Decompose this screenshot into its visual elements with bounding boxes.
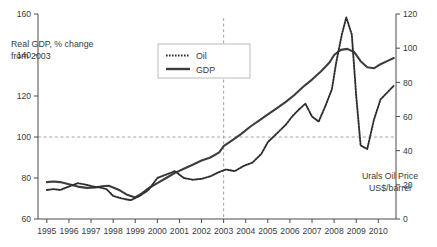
x-tick-label: 2008	[325, 226, 344, 236]
x-tick-label: 2002	[192, 226, 211, 236]
right-tick-label: 100	[403, 43, 418, 53]
left-tick-label: 100	[17, 132, 32, 142]
chart-svg: Real GDP, % change from 2003 Urals Oil P…	[0, 0, 437, 247]
chart-container: Real GDP, % change from 2003 Urals Oil P…	[0, 0, 437, 247]
x-tick-label: 1998	[104, 226, 123, 236]
x-tick-label: 2004	[236, 226, 255, 236]
x-tick-label: 1996	[59, 226, 78, 236]
left-tick-label: 140	[17, 50, 32, 60]
x-tick-label: 2001	[170, 226, 189, 236]
x-tick-label: 2010	[369, 226, 388, 236]
x-tick-label: 1999	[126, 226, 145, 236]
left-tick-label: 160	[17, 9, 32, 19]
x-tick-label: 2009	[347, 226, 366, 236]
right-tick-label: 20	[403, 180, 413, 190]
x-tick-label: 2003	[214, 226, 233, 236]
left-axis-title-line1: Real GDP, % change	[11, 39, 94, 49]
legend-label-gdp: GDP	[196, 65, 215, 75]
chart-background	[0, 0, 437, 247]
legend-label-oil: Oil	[196, 51, 207, 61]
x-tick-label: 2007	[302, 226, 321, 236]
left-tick-label: 60	[21, 214, 31, 224]
x-tick-label: 1997	[81, 226, 100, 236]
legend: Oil GDP	[158, 44, 250, 78]
right-tick-label: 60	[403, 112, 413, 122]
right-tick-label: 120	[403, 9, 418, 19]
left-tick-label: 120	[17, 91, 32, 101]
right-tick-label: 0	[403, 214, 408, 224]
right-tick-label: 80	[403, 78, 413, 88]
left-tick-label: 80	[21, 173, 31, 183]
x-tick-label: 1995	[37, 226, 56, 236]
x-tick-label: 2005	[258, 226, 277, 236]
right-tick-label: 40	[403, 146, 413, 156]
x-tick-label: 2000	[148, 226, 167, 236]
x-tick-label: 2006	[280, 226, 299, 236]
